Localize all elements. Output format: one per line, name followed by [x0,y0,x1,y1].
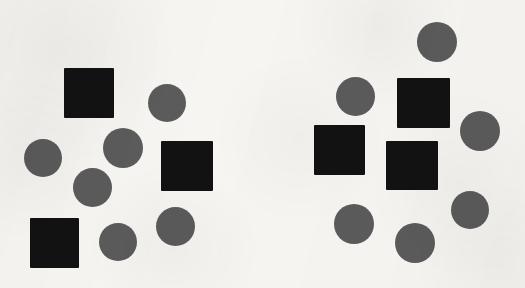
circle-8 [336,77,375,116]
square-5 [314,125,365,175]
square-4 [397,78,450,128]
right-cluster [0,0,525,288]
circle-12 [395,223,435,263]
circle-7 [417,22,457,62]
circle-10 [451,191,489,229]
stimulus-canvas [0,0,525,288]
circle-11 [334,204,374,244]
square-6 [386,141,438,190]
circle-9 [460,111,500,151]
